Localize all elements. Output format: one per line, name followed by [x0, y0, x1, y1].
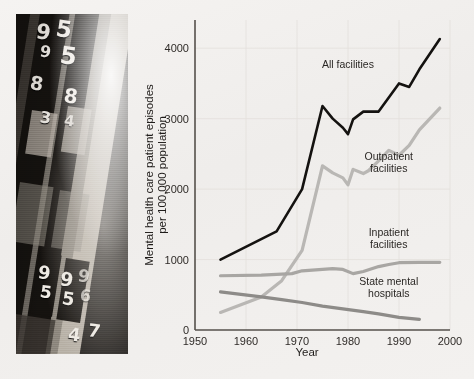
series-label-inpatient-facilities: Inpatient: [369, 226, 409, 238]
series-label-inpatient-facilities: facilities: [370, 238, 407, 250]
photo-numbers-layer: 9 5 9 5 8 8 3 4 9 5 9 5 9 6 4 7: [16, 14, 128, 354]
y-tick-label: 2000: [165, 183, 189, 195]
series-label-outpatient-facilities: facilities: [370, 162, 407, 174]
photo-digit: 8: [29, 73, 45, 94]
y-axis-title-line2: per 100,000 population: [156, 116, 168, 234]
y-tick-labels: 01000200030004000: [165, 42, 189, 336]
photo-digit: 9: [35, 21, 52, 44]
photo-digit: 9: [77, 267, 91, 285]
x-axis-title: Year: [295, 346, 318, 358]
y-tick-label: 4000: [165, 42, 189, 54]
y-tick-label: 1000: [165, 254, 189, 266]
photo-digit: 4: [63, 113, 75, 129]
x-tick-label: 2000: [438, 335, 462, 347]
archival-records-photo: 9 5 9 5 8 8 3 4 9 5 9 5 9 6 4 7: [16, 14, 128, 354]
line-chart: 01000200030004000 1950196019701980199020…: [132, 0, 474, 379]
series-label-state-mental-hospitals: hospitals: [368, 287, 409, 299]
figure-root: 9 5 9 5 8 8 3 4 9 5 9 5 9 6 4 7: [0, 0, 474, 379]
y-axis-title-line1: Mental health care patient episodes: [143, 84, 155, 266]
series-label-outpatient-facilities: Outpatient: [365, 150, 414, 162]
x-tick-label: 1950: [183, 335, 207, 347]
y-tick-label: 3000: [165, 113, 189, 125]
x-tick-label: 1990: [387, 335, 411, 347]
series-line-inpatient-facilities: [221, 262, 440, 275]
photo-digit: 6: [79, 287, 92, 304]
photo-digit: 9: [39, 43, 52, 60]
chart-svg: 01000200030004000 1950196019701980199020…: [132, 0, 474, 379]
x-tick-label: 1960: [234, 335, 258, 347]
series-label-all-facilities: All facilities: [322, 58, 374, 70]
photo-digit: 5: [61, 289, 76, 309]
photo-digit: 8: [63, 85, 80, 107]
photo-digit: 4: [67, 325, 82, 345]
photo-digit: 7: [87, 321, 102, 341]
x-tick-label: 1980: [336, 335, 360, 347]
series-label-state-mental-hospitals: State mental: [359, 275, 418, 287]
photo-digit: 5: [54, 17, 73, 42]
photo-digit: 3: [39, 109, 52, 126]
photo-digit: 5: [58, 43, 78, 69]
photo-digit: 9: [37, 263, 52, 283]
x-tick-labels: 195019601970198019902000: [183, 335, 462, 347]
photo-digit: 5: [39, 283, 53, 301]
